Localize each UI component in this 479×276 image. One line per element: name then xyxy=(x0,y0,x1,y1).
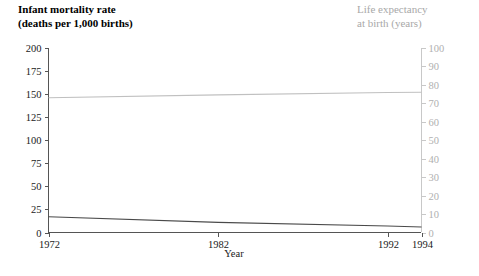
x-axis-tick-label: 1992 xyxy=(378,239,399,250)
x-axis-tick-label: 1994 xyxy=(412,239,434,250)
y-axis-right-tick-label: 40 xyxy=(429,154,440,165)
y-axis-left-tick-label: 50 xyxy=(31,181,42,192)
plot-area: 0255075100125150175200 01020304050607080… xyxy=(0,0,479,276)
y-axis-right-tick-label: 20 xyxy=(429,191,440,202)
y-axis-left-tick-label: 75 xyxy=(31,158,42,169)
y-axis-left-tick-label: 150 xyxy=(26,89,42,100)
chart-figure: Infant mortality rate (deaths per 1,000 … xyxy=(0,0,479,276)
y-axis-left-tick-label: 25 xyxy=(31,204,42,215)
y-axis-right-tick-label: 30 xyxy=(429,172,440,183)
series-infant-mortality-line xyxy=(49,217,422,227)
y-axis-right-tick-label: 10 xyxy=(429,209,440,220)
x-axis-ticks: 1972198219921994 xyxy=(39,233,434,250)
y-axis-left-tick-label: 175 xyxy=(26,66,42,77)
y-axis-right-tick-label: 90 xyxy=(429,61,440,72)
y-axis-right-tick-label: 70 xyxy=(429,98,440,109)
y-axis-right-tick-label: 60 xyxy=(429,117,440,128)
y-axis-right-tick-label: 50 xyxy=(429,135,440,146)
axes-group xyxy=(48,48,422,233)
y-axis-left-tick-label: 100 xyxy=(26,135,42,146)
series-life-expectancy-line xyxy=(49,92,422,98)
y-axis-left-tick-label: 0 xyxy=(36,228,41,239)
y-axis-right-tick-label: 0 xyxy=(429,228,434,239)
y-axis-left-ticks: 0255075100125150175200 xyxy=(26,43,49,239)
x-axis-title: Year xyxy=(224,248,244,259)
y-axis-right-tick-label: 100 xyxy=(429,43,445,54)
x-axis-tick-label: 1972 xyxy=(39,239,60,250)
y-axis-right-ticks: 0102030405060708090100 xyxy=(422,43,445,239)
data-series-group xyxy=(49,92,422,227)
y-axis-right-tick-label: 80 xyxy=(429,80,440,91)
y-axis-left-tick-label: 200 xyxy=(26,43,42,54)
y-axis-left-tick-label: 125 xyxy=(26,112,42,123)
